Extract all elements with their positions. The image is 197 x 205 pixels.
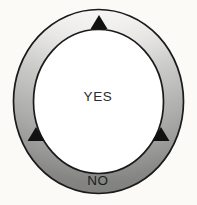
ring-diagram: YES NO: [0, 0, 197, 205]
diagram-canvas: YES NO: [0, 0, 197, 205]
inner-label-yes: YES: [84, 89, 113, 104]
outer-label-no: NO: [87, 173, 108, 188]
